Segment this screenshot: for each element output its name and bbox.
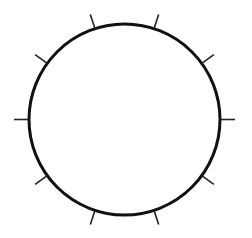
tick-mark <box>154 210 159 224</box>
tick-marks <box>14 14 235 224</box>
tick-mark <box>35 176 47 185</box>
tick-mark <box>90 14 95 28</box>
circle-diagram <box>0 0 252 238</box>
tick-mark <box>90 210 95 224</box>
tick-mark <box>202 176 214 185</box>
circle <box>29 24 220 215</box>
tick-mark <box>35 55 47 64</box>
tick-mark <box>154 14 159 28</box>
tick-mark <box>202 55 214 64</box>
